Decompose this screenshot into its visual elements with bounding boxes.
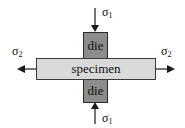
top-die: die <box>83 32 108 59</box>
bottom-compression-arrow-icon <box>91 102 99 124</box>
sigma1-bottom-label: σ1 <box>102 112 112 126</box>
top-die-label: die <box>88 38 104 54</box>
bottom-die-label: die <box>88 83 104 99</box>
left-tension-arrow-icon <box>17 65 36 73</box>
bottom-die: die <box>83 79 108 103</box>
top-compression-arrow-icon <box>91 8 99 32</box>
specimen-bar: specimen <box>36 58 156 80</box>
specimen-label: specimen <box>71 61 120 77</box>
right-tension-arrow-icon <box>155 65 175 73</box>
sigma2-right-label: σ2 <box>161 45 171 59</box>
sigma2-left-label: σ2 <box>12 45 22 59</box>
sigma1-top-label: σ1 <box>102 6 112 20</box>
